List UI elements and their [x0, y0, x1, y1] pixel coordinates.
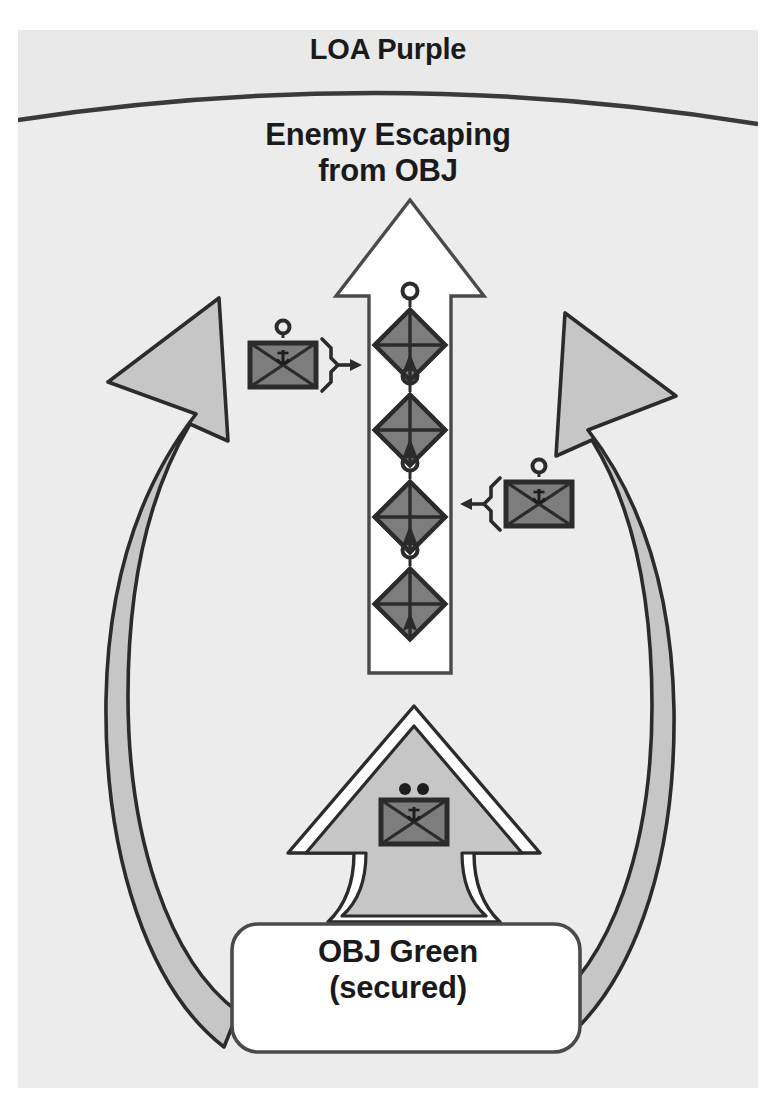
- objective-green-label: OBJ Green (secured): [228, 934, 568, 1006]
- loa-purple-label: LOA Purple: [0, 33, 776, 67]
- enemy-escaping-label: Enemy Escaping from OBJ: [138, 117, 638, 189]
- diagram-page: LOA Purple Enemy Escaping from OBJ OBJ G…: [0, 0, 776, 1110]
